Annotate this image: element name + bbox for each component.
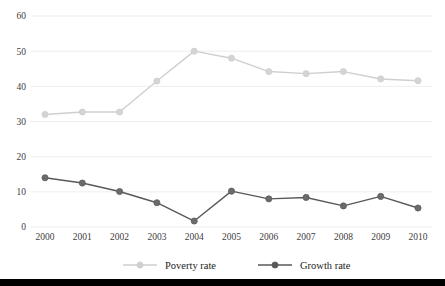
data-point-marker xyxy=(340,68,346,74)
x-axis-tick-label: 2007 xyxy=(297,232,316,242)
data-point-marker xyxy=(191,48,197,54)
y-axis-tick-label: 30 xyxy=(17,117,27,127)
x-axis-tick-label: 2010 xyxy=(409,232,428,242)
x-axis-tick-label: 2008 xyxy=(334,232,353,242)
data-point-marker xyxy=(415,78,421,84)
data-point-marker xyxy=(154,78,160,84)
data-point-marker xyxy=(42,175,48,181)
data-point-marker xyxy=(79,180,85,186)
data-point-marker xyxy=(228,188,234,194)
y-axis-tick-label: 0 xyxy=(21,222,26,232)
series-lines-group xyxy=(45,51,418,221)
data-point-marker xyxy=(154,200,160,206)
x-axis-tick-label: 2000 xyxy=(36,232,55,242)
x-axis-tick-label: 2004 xyxy=(185,232,204,242)
legend-marker-swatch xyxy=(272,262,278,268)
chart-legend: Poverty rateGrowth rate xyxy=(123,260,351,271)
data-point-marker xyxy=(42,111,48,117)
legend-label: Poverty rate xyxy=(165,260,216,271)
data-point-marker xyxy=(378,193,384,199)
data-point-marker xyxy=(266,196,272,202)
bottom-rule xyxy=(0,279,445,286)
legend-label: Growth rate xyxy=(300,260,351,271)
data-point-marker xyxy=(415,205,421,211)
y-axis-tick-label: 10 xyxy=(17,187,27,197)
gridlines-group xyxy=(31,16,432,227)
y-axis-tick-labels: 0102030405060 xyxy=(17,11,27,232)
series-line xyxy=(45,178,418,221)
data-point-marker xyxy=(378,76,384,82)
chart-container: 0102030405060 20002001200220032004200520… xyxy=(0,0,445,286)
x-axis-tick-label: 2002 xyxy=(110,232,129,242)
data-point-marker xyxy=(117,188,123,194)
x-axis-tick-label: 2003 xyxy=(147,232,166,242)
y-axis-tick-label: 20 xyxy=(17,152,27,162)
data-point-marker xyxy=(117,109,123,115)
series-markers-group xyxy=(42,48,421,224)
data-point-marker xyxy=(228,55,234,61)
y-axis-tick-label: 50 xyxy=(17,47,27,57)
x-axis-tick-label: 2001 xyxy=(73,232,92,242)
y-axis-tick-label: 40 xyxy=(17,82,27,92)
data-point-marker xyxy=(340,203,346,209)
data-point-marker xyxy=(303,71,309,77)
data-point-marker xyxy=(191,218,197,224)
x-axis-tick-label: 2006 xyxy=(259,232,278,242)
line-chart: 0102030405060 20002001200220032004200520… xyxy=(0,0,445,286)
data-point-marker xyxy=(266,68,272,74)
data-point-marker xyxy=(303,194,309,200)
legend-marker-swatch xyxy=(137,262,143,268)
data-point-marker xyxy=(79,109,85,115)
y-axis-tick-label: 60 xyxy=(17,11,27,21)
x-axis-tick-label: 2005 xyxy=(222,232,241,242)
x-axis-tick-labels: 2000200120022003200420052006200720082009… xyxy=(36,232,428,242)
x-axis-tick-label: 2009 xyxy=(371,232,390,242)
